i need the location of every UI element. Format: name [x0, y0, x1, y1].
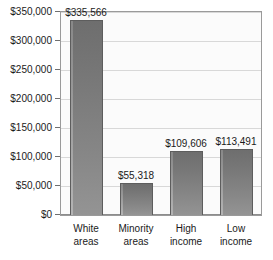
- y-axis-tick-label: $50,000: [16, 180, 55, 191]
- bar: [70, 20, 103, 215]
- x-axis: WhiteareasMinorityareasHighincomeLowinco…: [60, 222, 262, 256]
- bar-value-label: $335,566: [51, 7, 121, 18]
- plot-area: $335,566$55,318$109,606$113,491: [60, 11, 262, 216]
- y-axis-tick-label: $150,000: [10, 122, 55, 133]
- x-axis-tick-label: Lowincome: [206, 222, 266, 248]
- x-axis-tick-label-line1: Low: [227, 223, 245, 234]
- x-axis-tick-label-line1: High: [176, 223, 197, 234]
- x-axis-tick-label-line1: White: [73, 223, 99, 234]
- y-axis-tick-label: $0: [41, 209, 55, 220]
- x-axis-tick-label-line1: Minority: [118, 223, 153, 234]
- x-axis-tick-label-line2: income: [206, 235, 266, 248]
- y-axis-tick: $100,000: [10, 151, 60, 162]
- y-axis-tick: $150,000: [10, 122, 60, 133]
- bar: [120, 183, 153, 215]
- y-axis-tick-label: $100,000: [10, 151, 55, 162]
- y-axis-tick-label: $350,000: [10, 6, 55, 17]
- bar-value-label: $113,491: [201, 136, 271, 147]
- y-axis-tick: $0: [41, 209, 60, 220]
- y-axis-tick: $300,000: [10, 35, 60, 46]
- y-axis-tick: $50,000: [16, 180, 60, 191]
- y-axis-tick-label: $250,000: [10, 64, 55, 75]
- y-axis-tick: $200,000: [10, 93, 60, 104]
- bar-value-label: $55,318: [101, 170, 171, 181]
- y-axis-tick-label: $200,000: [10, 93, 55, 104]
- bars-layer: [61, 12, 261, 215]
- bar: [220, 149, 253, 215]
- bar-chart-figure: $0$50,000$100,000$150,000$200,000$250,00…: [0, 0, 273, 260]
- y-axis: $0$50,000$100,000$150,000$200,000$250,00…: [0, 11, 60, 216]
- y-axis-tick-label: $300,000: [10, 35, 55, 46]
- y-axis-tick: $250,000: [10, 64, 60, 75]
- bar: [170, 151, 203, 215]
